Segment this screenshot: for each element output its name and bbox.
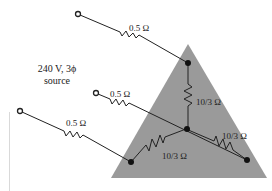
source-label-line1: 240 V, 3ϕ bbox=[38, 63, 77, 74]
load-a-label: 10/3 Ω bbox=[196, 97, 221, 107]
load-b-label: 10/3 Ω bbox=[222, 131, 247, 141]
node-bottom-right bbox=[244, 157, 250, 163]
load-c-label: 10/3 Ω bbox=[162, 151, 187, 161]
node-center bbox=[184, 126, 190, 132]
node-bottom-left bbox=[128, 159, 134, 165]
terminal-c bbox=[18, 109, 23, 114]
node-top bbox=[185, 60, 191, 66]
circuit-diagram: 0.5 Ω 0.5 Ω 0.5 Ω 10/3 Ω 10/3 Ω 10/3 Ω 2… bbox=[0, 0, 272, 191]
source-label-line2: source bbox=[44, 75, 71, 86]
line-a-resistor-label: 0.5 Ω bbox=[129, 23, 150, 33]
line-b-resistor-label: 0.5 Ω bbox=[110, 89, 131, 99]
terminal-a bbox=[76, 12, 81, 17]
line-c-resistor-label: 0.5 Ω bbox=[66, 118, 87, 128]
terminal-b bbox=[94, 91, 99, 96]
